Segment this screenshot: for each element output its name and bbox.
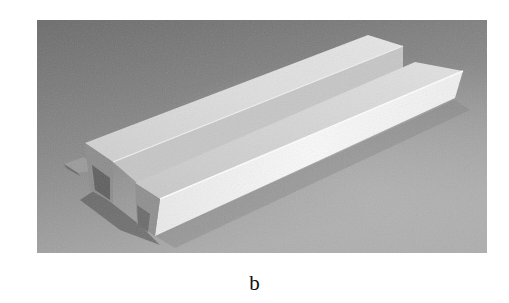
beam-photo [37,20,487,253]
panel-label: b [0,271,509,295]
figure: b [0,0,509,303]
